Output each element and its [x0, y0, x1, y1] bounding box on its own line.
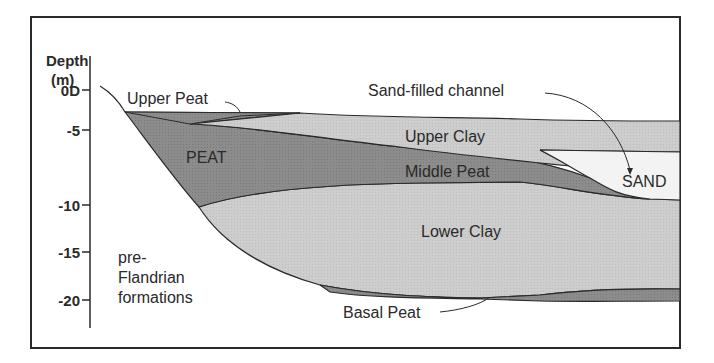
depth-axis: Depth (m) 0D -5 -10 -15 -20: [46, 52, 90, 328]
label-basal-peat: Basal Peat: [343, 304, 421, 321]
label-peat: PEAT: [186, 149, 227, 166]
tick-label-0: 0D: [61, 82, 80, 99]
label-lower-clay: Lower Clay: [421, 223, 501, 240]
lower-clay-layer: [199, 182, 680, 298]
axis-title-depth: Depth: [46, 52, 89, 69]
tick-label-10: -10: [58, 197, 80, 214]
label-pre-flandrian-2: Flandrian: [118, 269, 185, 286]
tick-label-20: -20: [58, 292, 80, 309]
label-pre-flandrian-3: formations: [118, 289, 193, 306]
basin-slope-line: [100, 86, 125, 112]
stratigraphy-diagram: Depth (m) 0D -5 -10 -15 -20 Upper Peat P…: [0, 0, 714, 363]
label-middle-peat: Middle Peat: [405, 163, 490, 180]
label-upper-clay: Upper Clay: [405, 128, 485, 145]
tick-label-5: -5: [67, 122, 80, 139]
upper-peat-leader: [225, 102, 240, 112]
label-sand: SAND: [622, 173, 666, 190]
label-sand-channel: Sand-filled channel: [368, 82, 504, 99]
tick-label-15: -15: [58, 244, 80, 261]
label-upper-peat: Upper Peat: [127, 90, 208, 107]
label-pre-flandrian-1: pre-: [118, 249, 146, 266]
